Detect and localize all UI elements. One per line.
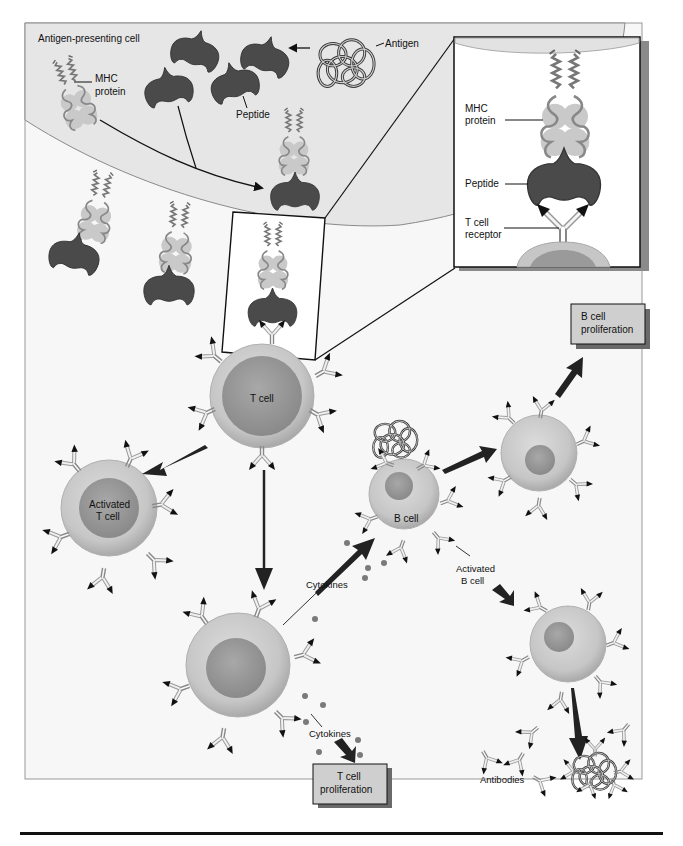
cytokines-lower-label: Cytokines	[309, 728, 351, 739]
inset-mhc-label-line1: MHC	[465, 103, 488, 114]
inset-peptide-label: Peptide	[465, 178, 499, 189]
t-prolif-label-line2: proliferation	[320, 784, 372, 795]
activated-t-cell-label-line1: Activated	[89, 499, 130, 510]
bottom-rule	[20, 832, 663, 835]
cytokines-upper-label: Cytokines	[306, 579, 348, 590]
apc-label: Antigen-presenting cell	[38, 33, 140, 44]
antigen-label: Antigen	[385, 38, 419, 49]
inset-tcr-label-line1: T cell	[465, 217, 489, 228]
activated-b-label-line2: B cell	[461, 575, 484, 586]
activated-b-label-line1: Activated	[456, 563, 495, 574]
immune-response-diagram: Antigen-presenting cell Antigen Peptide …	[0, 0, 683, 846]
t-prolif-label-line1: T cell	[337, 771, 361, 782]
antibodies-label: Antibodies	[480, 774, 525, 785]
peptide-label: Peptide	[236, 109, 270, 120]
mhc-label-line2: protein	[95, 86, 126, 97]
b-cell-label: B cell	[394, 513, 418, 524]
inset-mhc-label-line2: protein	[465, 115, 496, 126]
mhc-label-line1: MHC	[95, 73, 118, 84]
t-cell-label: T cell	[250, 393, 274, 404]
activated-t-cell-label-line2: T cell	[96, 511, 120, 522]
inset-tcr-label-line2: receptor	[465, 229, 502, 240]
b-prolif-label-line2: proliferation	[581, 324, 633, 335]
b-prolif-label-line1: B cell	[581, 311, 605, 322]
